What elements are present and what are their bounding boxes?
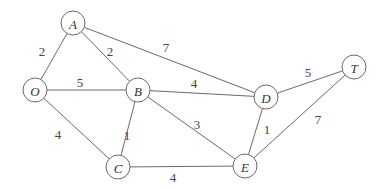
edge-weight-O-A: 2 [39, 44, 46, 59]
edge-A-D [84, 27, 255, 92]
nodes-layer: AOBDTCE [23, 11, 366, 179]
edge-A-B [81, 32, 129, 82]
edge-weight-O-B: 5 [77, 75, 84, 90]
node-label: D [260, 91, 271, 106]
node-C: C [106, 155, 130, 179]
edge-weight-B-D: 4 [191, 76, 198, 91]
node-label: O [30, 84, 40, 99]
edge-D-E [248, 108, 262, 154]
edge-C-E [130, 166, 233, 167]
graph-diagram: 227545413174 AOBDTCE [0, 0, 386, 189]
weights-layer: 227545413174 [39, 40, 322, 185]
edges-layer [41, 27, 345, 167]
node-label: B [134, 84, 142, 99]
node-label: T [350, 61, 358, 76]
edge-weight-B-E: 3 [194, 117, 201, 132]
edge-weight-A-D: 7 [163, 40, 170, 55]
node-B: B [126, 78, 150, 102]
edge-weight-C-E: 4 [170, 170, 177, 185]
edge-B-E [148, 97, 235, 159]
node-D: D [254, 85, 278, 109]
edge-O-C [44, 98, 109, 159]
node-E: E [233, 154, 257, 178]
node-label: E [240, 160, 249, 175]
edge-weight-A-B: 2 [107, 44, 114, 59]
node-O: O [23, 78, 47, 102]
edge-B-D [150, 91, 254, 97]
node-label: C [114, 161, 123, 176]
node-label: A [68, 17, 77, 32]
edge-weight-D-T: 5 [305, 65, 312, 80]
edge-weight-B-C: 1 [124, 128, 131, 143]
edge-weight-D-E: 1 [264, 122, 271, 137]
edge-weight-T-E: 7 [315, 112, 322, 127]
node-T: T [342, 55, 366, 79]
node-A: A [61, 11, 85, 35]
edge-weight-O-C: 4 [55, 127, 62, 142]
